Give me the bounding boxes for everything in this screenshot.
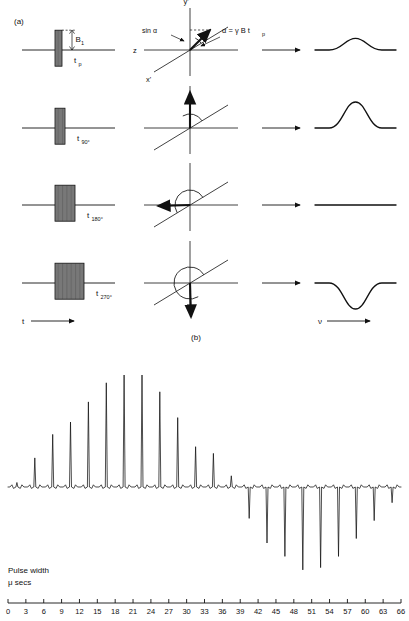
axis-tick-label: 12 <box>75 607 83 616</box>
axis-tick-label: 63 <box>379 607 387 616</box>
vector-diagram-row-3 <box>144 163 238 231</box>
axis-tick-label: 54 <box>325 607 333 616</box>
vector-diagram-row-4 <box>144 241 238 317</box>
svg-text:ν: ν <box>318 317 322 326</box>
axis-tick-label: 30 <box>182 607 190 616</box>
svg-text:α = γ B t: α = γ B t <box>222 26 251 35</box>
axis-tick-label: 15 <box>93 607 101 616</box>
pulse-diagram-row-3: t180° <box>22 185 115 221</box>
axis-tick-label: 66 <box>397 607 405 616</box>
axis-tick-label: 24 <box>147 607 155 616</box>
axis-tick-label: 27 <box>165 607 173 616</box>
svg-text:Pulse width: Pulse width <box>8 566 49 575</box>
nutation-spectrum-plot <box>8 375 401 570</box>
svg-text:μ secs: μ secs <box>8 578 31 587</box>
pulse-label: t <box>77 134 80 143</box>
axis-tick-label: 42 <box>254 607 262 616</box>
axis-tick-label: 57 <box>343 607 351 616</box>
spectrum-row-4 <box>315 283 396 309</box>
pulse-width-axis: 0369121518212427303336394245485154576063… <box>6 599 405 616</box>
frequency-axis-arrow: ν <box>318 317 370 326</box>
axis-tick-label: 21 <box>129 607 137 616</box>
pulse-diagram-row-4: t270° <box>22 263 115 299</box>
vector-diagram-row-1 <box>144 8 238 76</box>
svg-text:90°: 90° <box>82 139 90 145</box>
axis-tick-label: 36 <box>218 607 226 616</box>
spectrum-row-2 <box>315 102 396 128</box>
figure-canvas: (a)tpt90°t180°t270°B1ty'zx'sin αα = γ B … <box>0 0 409 621</box>
axis-tick-label: 48 <box>290 607 298 616</box>
axis-tick-label: 6 <box>42 607 46 616</box>
svg-text:270°: 270° <box>101 294 112 300</box>
axis-tick-label: 3 <box>24 607 28 616</box>
svg-text:1: 1 <box>81 40 84 46</box>
pulse-diagram-row-1: tp <box>22 30 115 66</box>
svg-text:p: p <box>262 31 265 37</box>
svg-text:x': x' <box>146 75 152 84</box>
pulse-width-axis-label: Pulse widthμ secs <box>8 566 49 587</box>
svg-text:y': y' <box>183 0 189 6</box>
axis-tick-label: 9 <box>60 607 64 616</box>
spectrum-row-1 <box>315 38 396 50</box>
svg-text:180°: 180° <box>92 216 103 222</box>
axis-tick-label: 18 <box>111 607 119 616</box>
pulse-label: t <box>87 211 90 220</box>
axis-tick-label: 45 <box>272 607 280 616</box>
axis-tick-label: 51 <box>308 607 316 616</box>
vector-diagram-row-2 <box>144 86 238 154</box>
svg-text:p: p <box>79 61 82 67</box>
pulse-label: t <box>74 56 77 65</box>
axis-tick-label: 60 <box>361 607 369 616</box>
axis-tick-label: 33 <box>200 607 208 616</box>
b1-amplitude-annotation: B1 <box>62 30 84 50</box>
svg-text:(a): (a) <box>14 17 24 26</box>
nmr-nutation-figure: (a)tpt90°t180°t270°B1ty'zx'sin αα = γ B … <box>0 0 409 621</box>
pulse-label: t <box>96 289 99 298</box>
axis-tick-label: 0 <box>6 607 10 616</box>
svg-text:sin α: sin α <box>142 27 157 34</box>
time-axis-arrow: t <box>22 317 74 326</box>
svg-text:z: z <box>133 46 137 55</box>
axis-tick-label: 39 <box>236 607 244 616</box>
svg-text:t: t <box>22 317 25 326</box>
svg-text:(b): (b) <box>191 333 201 342</box>
pulse-diagram-row-2: t90° <box>22 108 115 144</box>
